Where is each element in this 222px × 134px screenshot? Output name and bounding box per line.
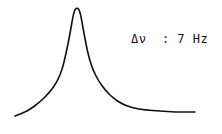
spectral-peak-plot bbox=[0, 0, 222, 134]
linewidth-annotation: Δν : 7 Hz bbox=[131, 32, 208, 46]
lorentzian-peak-curve bbox=[15, 8, 195, 116]
